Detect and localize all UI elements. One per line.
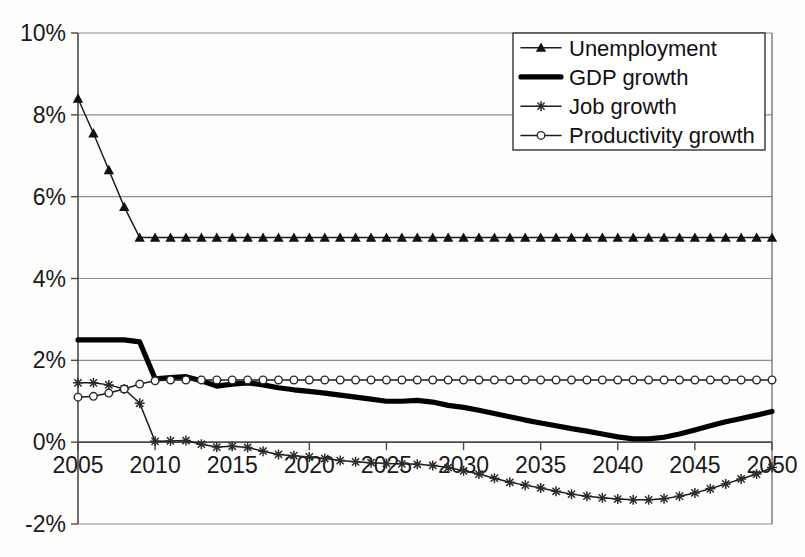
- star-marker: [659, 494, 669, 504]
- legend-label: Productivity growth: [569, 123, 755, 148]
- circle-marker: [383, 376, 391, 384]
- star-marker: [443, 463, 453, 473]
- circle-marker: [136, 380, 144, 388]
- circle-marker: [244, 376, 252, 384]
- star-marker: [273, 449, 283, 459]
- circle-marker: [228, 376, 236, 384]
- circle-marker: [660, 376, 668, 384]
- circle-marker: [722, 376, 730, 384]
- star-marker: [736, 474, 746, 484]
- star-marker: [304, 452, 314, 462]
- circle-marker: [306, 376, 314, 384]
- x-axis-tick-label: 2005: [52, 452, 103, 478]
- circle-marker: [444, 376, 452, 384]
- circle-marker: [429, 376, 437, 384]
- circle-marker: [151, 377, 159, 385]
- circle-marker: [599, 376, 607, 384]
- circle-marker: [645, 376, 653, 384]
- circle-marker: [259, 376, 267, 384]
- star-marker: [181, 436, 191, 446]
- legend-label: Job growth: [569, 94, 677, 119]
- star-marker: [166, 436, 176, 446]
- circle-marker: [367, 376, 375, 384]
- star-marker: [196, 439, 206, 449]
- circle-marker: [74, 393, 82, 401]
- circle-marker: [614, 376, 622, 384]
- star-marker: [428, 460, 438, 470]
- star-marker: [536, 101, 546, 111]
- x-axis-tick-label: 2040: [592, 452, 643, 478]
- circle-marker: [290, 376, 298, 384]
- star-marker: [752, 469, 762, 479]
- x-axis-tick-label: 2045: [669, 452, 720, 478]
- star-marker: [88, 378, 98, 388]
- circle-marker: [460, 376, 468, 384]
- y-axis-tick-label: 6%: [33, 184, 66, 210]
- star-marker: [674, 491, 684, 501]
- chart-page: 10%8%6%4%2%0%-2% 20052010201520202025203…: [0, 0, 805, 557]
- legend-label: GDP growth: [569, 65, 688, 90]
- circle-marker: [521, 376, 529, 384]
- y-axis-tick-label: -2%: [25, 511, 66, 537]
- star-marker: [366, 458, 376, 468]
- circle-marker: [105, 389, 113, 397]
- circle-marker: [537, 132, 545, 140]
- star-marker: [767, 463, 777, 473]
- circle-marker: [676, 376, 684, 384]
- circle-marker: [275, 376, 283, 384]
- star-marker: [628, 495, 638, 505]
- y-axis-tick-label: 8%: [33, 102, 66, 128]
- circle-marker: [321, 376, 329, 384]
- y-axis-tick-label: 10%: [20, 20, 66, 46]
- circle-marker: [475, 376, 483, 384]
- x-axis-tick-label: 2010: [130, 452, 181, 478]
- star-marker: [505, 477, 515, 487]
- circle-marker: [491, 376, 499, 384]
- star-marker: [397, 459, 407, 469]
- circle-marker: [413, 376, 421, 384]
- y-axis-tick-label: 4%: [33, 266, 66, 292]
- x-axis-tick-label: 2035: [515, 452, 566, 478]
- star-marker: [582, 491, 592, 501]
- star-marker: [489, 473, 499, 483]
- star-marker: [705, 484, 715, 494]
- circle-marker: [583, 376, 591, 384]
- star-marker: [551, 486, 561, 496]
- circle-marker: [198, 376, 206, 384]
- circle-marker: [552, 376, 560, 384]
- star-marker: [567, 489, 577, 499]
- star-marker: [289, 451, 299, 461]
- star-marker: [613, 494, 623, 504]
- circle-marker: [167, 376, 175, 384]
- chart-legend[interactable]: UnemploymentGDP growthJob growthProducti…: [513, 33, 765, 150]
- circle-marker: [568, 376, 576, 384]
- circle-marker: [90, 393, 98, 401]
- star-marker: [212, 442, 222, 452]
- circle-marker: [707, 376, 715, 384]
- circle-marker: [398, 376, 406, 384]
- y-axis-tick-label: 2%: [33, 347, 66, 373]
- legend-label: Unemployment: [569, 36, 717, 61]
- star-marker: [104, 380, 114, 390]
- circle-marker: [506, 376, 514, 384]
- star-marker: [459, 466, 469, 476]
- star-marker: [227, 441, 237, 451]
- star-marker: [381, 458, 391, 468]
- star-marker: [73, 378, 83, 388]
- star-marker: [320, 454, 330, 464]
- star-marker: [536, 483, 546, 493]
- circle-marker: [737, 376, 745, 384]
- circle-marker: [537, 376, 545, 384]
- circle-marker: [213, 376, 221, 384]
- circle-marker: [753, 376, 761, 384]
- star-marker: [721, 479, 731, 489]
- circle-marker: [182, 376, 190, 384]
- star-marker: [597, 493, 607, 503]
- star-marker: [335, 456, 345, 466]
- star-marker: [412, 459, 422, 469]
- circle-marker: [120, 385, 128, 393]
- star-marker: [351, 457, 361, 467]
- circle-marker: [768, 376, 776, 384]
- economic-projection-chart: 10%8%6%4%2%0%-2% 20052010201520202025203…: [0, 0, 805, 557]
- star-marker: [474, 469, 484, 479]
